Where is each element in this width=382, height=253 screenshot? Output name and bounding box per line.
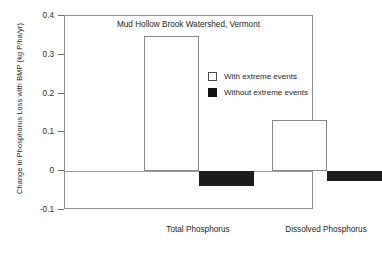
bar (272, 120, 327, 171)
y-axis-tick-label: -0.1 (8, 205, 54, 214)
plot-area (64, 15, 313, 209)
open-square-icon (208, 72, 217, 81)
bar (327, 171, 382, 181)
chart-legend: With extreme events Without extreme even… (208, 68, 332, 100)
y-axis-tick-label: 0.4 (8, 11, 54, 20)
chart-title: Mud Hollow Brook Watershed, Vermont (64, 20, 313, 29)
legend-label: Without extreme events (224, 88, 308, 97)
legend-item-with-extreme-events: With extreme events (208, 68, 332, 84)
zero-baseline (65, 171, 312, 172)
y-axis-label: Change in Phosphorus Loss with BMP (kg P… (15, 4, 24, 214)
filled-square-icon (208, 88, 217, 97)
x-axis-category-label: Total Phosphorus (166, 225, 229, 234)
legend-item-without-extreme-events: Without extreme events (208, 84, 332, 100)
x-axis-category-label: Dissolved Phosphorus (285, 225, 366, 234)
bar (199, 171, 254, 186)
y-axis-tick-label: 0 (8, 166, 54, 175)
y-axis-tick (58, 209, 64, 210)
bar (144, 36, 199, 171)
y-axis-tick-label: 0.3 (8, 49, 54, 58)
y-axis-tick-label: 0.1 (8, 127, 54, 136)
legend-label: With extreme events (224, 72, 297, 81)
y-axis-tick-label: 0.2 (8, 88, 54, 97)
